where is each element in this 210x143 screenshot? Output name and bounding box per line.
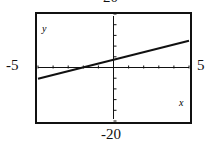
- y-axis-label: y: [41, 23, 47, 34]
- plot-area: yx: [0, 0, 210, 143]
- x-axis-label: x: [178, 97, 184, 108]
